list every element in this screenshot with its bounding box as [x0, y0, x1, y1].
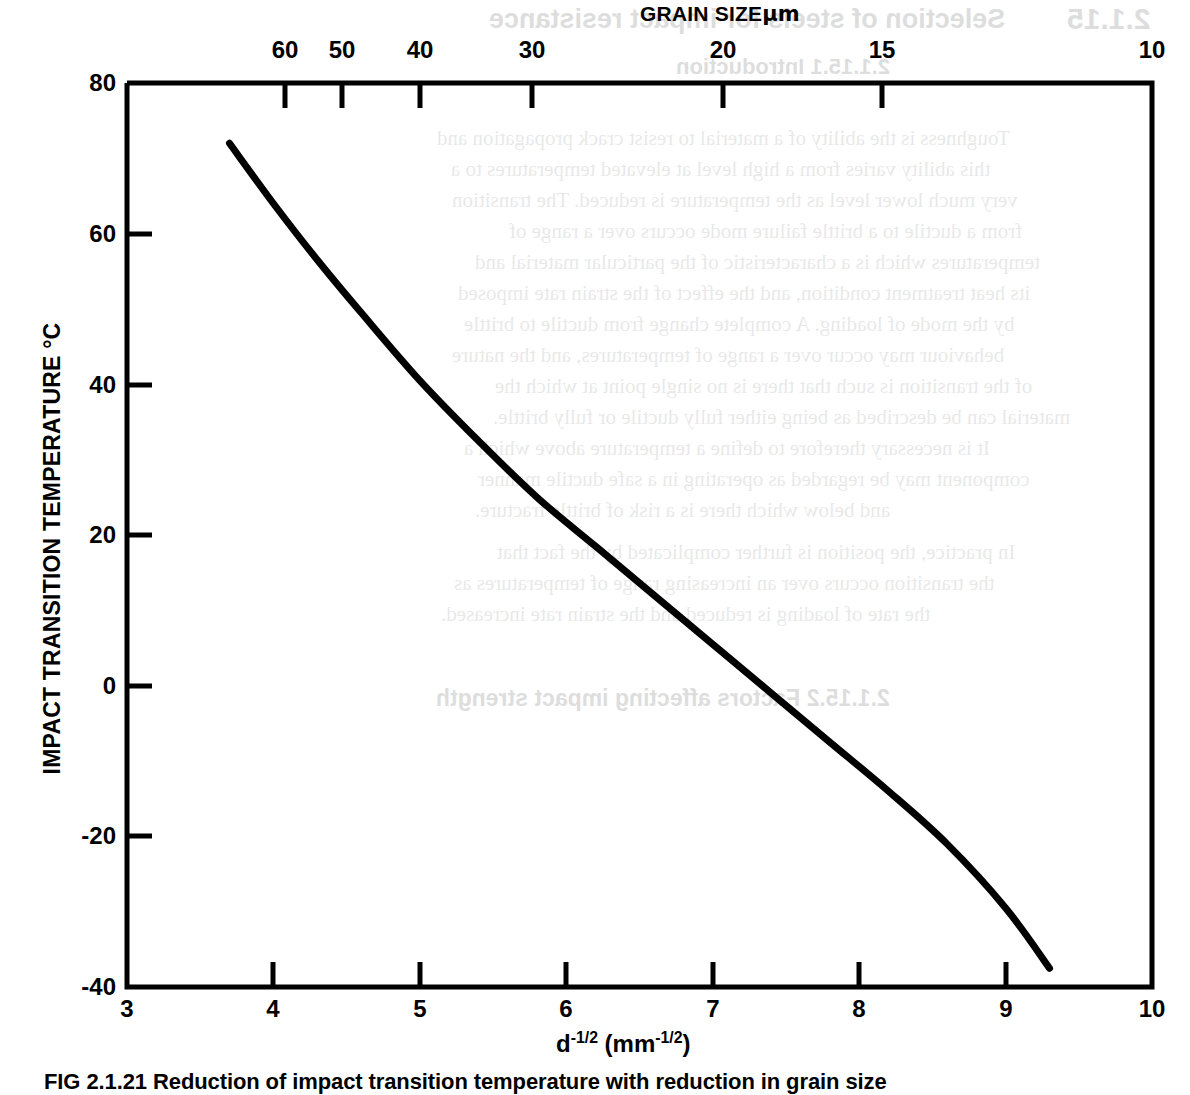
x-axis-title-base: d	[556, 1030, 571, 1057]
left-axis-ticks	[127, 234, 152, 836]
figure-caption: FIG 2.1.21 Reduction of impact transitio…	[44, 1069, 887, 1095]
top-tick-label: 10	[1122, 36, 1182, 64]
x-axis-title-exponent-2: -1/2	[655, 1029, 682, 1046]
x-tick-label: 5	[390, 995, 450, 1023]
x-tick-label: 9	[976, 995, 1036, 1023]
top-tick-label: 40	[390, 36, 450, 64]
x-axis-title: d-1/2 (mm-1/2)	[556, 1030, 691, 1058]
bottom-axis-ticks	[273, 962, 1006, 987]
x-tick-label: 4	[243, 995, 303, 1023]
y-tick-label: 60	[36, 220, 116, 248]
top-tick-label: 15	[852, 36, 912, 64]
y-axis-title: IMPACT TRANSITION TEMPERATURE °C	[39, 269, 66, 829]
x-tick-label: 8	[829, 995, 889, 1023]
top-tick-label: 30	[502, 36, 562, 64]
data-series-line	[230, 143, 1050, 968]
x-axis-title-mid: (mm	[598, 1030, 655, 1057]
y-tick-label: 80	[36, 69, 116, 97]
x-axis-title-exponent: -1/2	[571, 1029, 598, 1046]
x-tick-label: 10	[1122, 995, 1182, 1023]
y-tick-label: -40	[26, 973, 116, 1001]
top-tick-label: 60	[255, 36, 315, 64]
x-axis-title-end: )	[683, 1030, 691, 1057]
x-tick-label: 7	[683, 995, 743, 1023]
top-axis-ticks	[285, 83, 882, 108]
top-tick-label: 20	[693, 36, 753, 64]
x-tick-label: 6	[536, 995, 596, 1023]
top-tick-label: 50	[312, 36, 372, 64]
